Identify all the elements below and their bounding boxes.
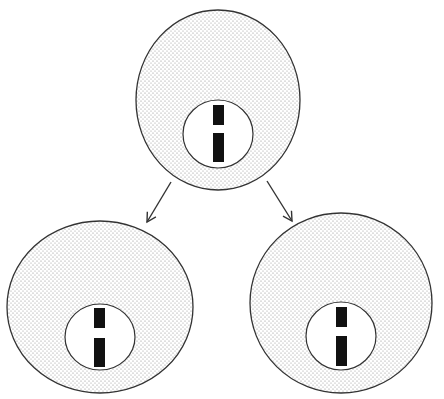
chromosome-bar [94,308,105,328]
chromosome-bar [336,307,347,327]
daughter-right-cell [250,213,432,393]
arrow-left-icon [147,182,171,222]
chromosome-bar [336,336,347,366]
chromosome-bar [94,338,105,367]
chromosome-bar [213,133,224,162]
arrow-right-icon [267,181,292,221]
chromosome-bar [213,105,224,125]
daughter-left-cell [7,221,193,393]
parent-cell [136,10,300,190]
cell-division-diagram [0,0,444,399]
